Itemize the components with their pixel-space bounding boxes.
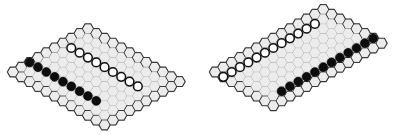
white-stone (286, 34, 295, 43)
white-stone (92, 58, 101, 67)
white-stone (125, 77, 134, 86)
black-stone (277, 87, 286, 96)
white-stone (261, 48, 270, 57)
black-stone (319, 63, 328, 72)
black-stone (286, 82, 295, 91)
hex-boards-figure (0, 0, 404, 135)
black-stone (302, 72, 311, 81)
black-stone (25, 58, 34, 67)
white-stone (269, 44, 278, 53)
black-stone (34, 63, 43, 72)
black-stone (369, 34, 378, 43)
hex-board-right (209, 5, 387, 111)
black-stone (311, 68, 320, 77)
white-stone (227, 68, 236, 77)
white-stone (252, 53, 261, 62)
black-stone (344, 48, 353, 57)
white-stone (134, 82, 143, 91)
white-stone (236, 63, 245, 72)
black-stone (294, 77, 303, 86)
black-stone (352, 44, 361, 53)
black-stone (92, 97, 101, 106)
white-stone (219, 72, 228, 81)
white-stone (244, 58, 253, 67)
black-stone (327, 58, 336, 67)
white-stone (117, 72, 126, 81)
black-stone (84, 92, 93, 101)
white-stone (277, 39, 286, 48)
black-stone (59, 77, 68, 86)
black-stone (361, 39, 370, 48)
black-stone (75, 87, 84, 96)
black-stone (336, 53, 345, 62)
black-stone (42, 68, 51, 77)
white-stone (311, 20, 320, 29)
black-stone (50, 72, 59, 81)
white-stone (75, 48, 84, 57)
white-stone (294, 29, 303, 38)
white-stone (84, 53, 93, 62)
white-stone (67, 44, 76, 53)
white-stone (302, 24, 311, 33)
black-stone (67, 82, 76, 91)
white-stone (109, 68, 118, 77)
hex-board-left (7, 24, 185, 130)
white-stone (100, 63, 109, 72)
